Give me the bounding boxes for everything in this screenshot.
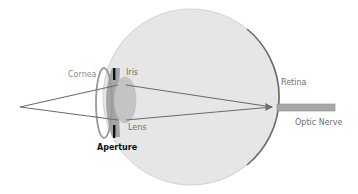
aperture-bar-bottom	[113, 125, 115, 138]
optic-nerve	[277, 104, 335, 111]
ray-incoming-bottom	[20, 107, 118, 120]
label-optic-nerve: Optic Nerve	[295, 119, 343, 127]
eye-diagram-graphic	[0, 0, 358, 194]
aperture-bar-top	[113, 68, 115, 80]
label-lens: Lens	[128, 124, 146, 132]
label-retina: Retina	[281, 79, 306, 87]
label-aperture: Aperture	[97, 144, 137, 152]
lens	[114, 77, 136, 123]
label-iris: Iris	[126, 69, 138, 77]
label-cornea: Cornea	[68, 71, 97, 79]
eye-diagram: Cornea Iris Lens Aperture Retina Optic N…	[0, 0, 358, 194]
